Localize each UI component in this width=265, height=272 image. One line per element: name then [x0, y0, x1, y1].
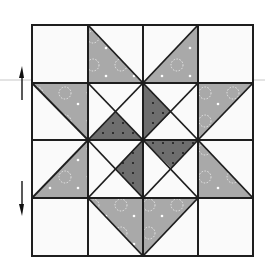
quilt-block-diagram	[0, 0, 265, 272]
up-arrow-icon	[19, 66, 24, 100]
down-arrow-icon	[19, 181, 24, 216]
